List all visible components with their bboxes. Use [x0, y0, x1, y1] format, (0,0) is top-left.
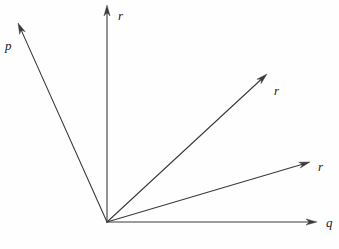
vector-label-p: p: [5, 39, 12, 52]
vector-p-arrowhead: [18, 23, 25, 34]
vector-diagram-figure: p r r r q: [0, 0, 339, 249]
vector-label-q-horizontal: q: [326, 216, 333, 229]
vector-label-r-vertical: r: [118, 9, 123, 22]
vector-label-r-shallow: r: [318, 160, 323, 173]
vector-diagram-canvas: [0, 0, 339, 249]
vector-label-r-diagonal: r: [274, 84, 279, 97]
vector-r-diagonal-shaft: [107, 79, 262, 222]
vector-r-shallow-shaft: [107, 164, 303, 222]
vector-p-shaft: [21, 29, 107, 222]
